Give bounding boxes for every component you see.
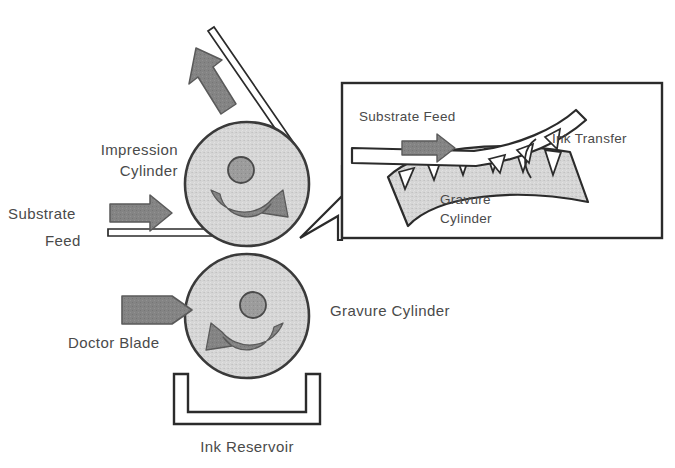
impression-cylinder-group: Impression Cylinder: [101, 122, 309, 246]
impression-cylinder-hub: [228, 157, 254, 183]
inset-ink-transfer-label: Ink Transfer: [552, 131, 627, 146]
gravure-cylinder-group: Gravure Cylinder: [185, 254, 450, 378]
impression-cylinder-label-line2: Cylinder: [120, 162, 178, 179]
inset-gravure-cylinder-label-line1: Gravure: [440, 192, 491, 207]
ink-reservoir-label: Ink Reservoir: [200, 438, 294, 455]
inset-gravure-cylinder-label-line2: Cylinder: [440, 211, 492, 226]
substrate-feed-group: Substrate Feed: [8, 195, 172, 249]
gravure-printing-diagram: Substrate Feed Ink Transfer Gravure Cyli…: [0, 0, 675, 468]
doctor-blade-shape: [122, 296, 192, 324]
substrate-feed-arrow: [110, 195, 172, 231]
inset-substrate-feed-label: Substrate Feed: [359, 109, 456, 124]
doctor-blade-label: Doctor Blade: [68, 334, 160, 351]
diagram-canvas: Substrate Feed Ink Transfer Gravure Cyli…: [0, 0, 675, 468]
impression-cylinder-body: [185, 122, 309, 246]
ink-reservoir-group: Ink Reservoir: [174, 374, 320, 455]
inset-detail-group: Substrate Feed Ink Transfer Gravure Cyli…: [300, 83, 662, 240]
doctor-blade-group: Doctor Blade: [68, 296, 192, 351]
ink-reservoir-trough: [174, 374, 320, 424]
substrate-feed-label-line2: Feed: [45, 232, 81, 249]
impression-cylinder-label-line1: Impression: [101, 141, 178, 158]
substrate-feed-label-line1: Substrate: [8, 205, 76, 222]
gravure-cylinder-label: Gravure Cylinder: [330, 302, 450, 319]
gravure-cylinder-hub: [240, 292, 266, 318]
